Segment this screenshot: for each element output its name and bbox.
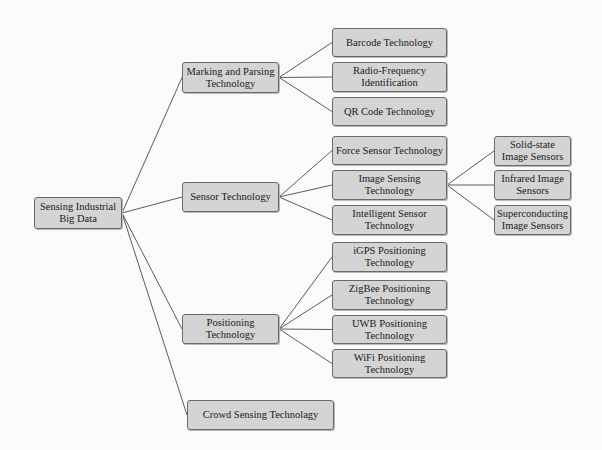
node-crowd-sensing-technology: Crowd Sensing Technolagy: [187, 400, 334, 430]
node-zigbee-positioning-technology: ZigBee Positioning Technology: [332, 280, 447, 310]
node-force-sensor-technology: Force Sensor Technology: [332, 136, 447, 165]
node-label: Sensor Technology: [190, 191, 270, 203]
node-label: Barcode Technology: [346, 37, 433, 49]
node-label: Crowd Sensing Technolagy: [203, 409, 319, 421]
node-label: Image Sensing Technology: [336, 173, 443, 197]
node-label: ZigBee Positioning Technology: [336, 283, 443, 307]
node-sensor-technology: Sensor Technology: [182, 182, 279, 212]
node-label: Radio-Frequency Identification: [336, 65, 443, 89]
node-sensing-industrial-big-data: Sensing Industrial Big Data: [34, 197, 122, 229]
node-label: QR Code Technology: [344, 106, 435, 118]
node-label: iGPS Positioning Technology: [336, 245, 443, 269]
node-label: Superconducting Image Sensors: [497, 208, 568, 232]
node-label: Positioning Technology: [186, 317, 275, 341]
node-label: Solid-state Image Sensors: [498, 139, 567, 163]
node-igps-positioning-technology: iGPS Positioning Technology: [332, 242, 447, 272]
node-marking-and-parsing-technology: Marking and Parsing Technology: [182, 62, 279, 93]
node-label: Force Sensor Technology: [336, 145, 443, 157]
node-intelligent-sensor-technology: Intelligent Sensor Technology: [332, 205, 447, 235]
node-radio-frequency-identification: Radio-Frequency Identification: [332, 62, 447, 92]
node-infrared-image-sensors: Infrared Image Sensors: [494, 170, 571, 200]
node-label: Sensing Industrial Big Data: [38, 201, 118, 225]
mind-map-diagram: Sensing Industrial Big Data Marking and …: [0, 0, 602, 450]
node-superconducting-image-sensors: Superconducting Image Sensors: [494, 205, 571, 235]
node-uwb-positioning-technology: UWB Positioning Technology: [332, 315, 447, 344]
node-label: Marking and Parsing Technology: [186, 66, 275, 90]
node-label: WiFi Positioning Technology: [336, 352, 443, 376]
node-label: Infrared Image Sensors: [498, 173, 567, 197]
node-label: UWB Positioning Technology: [336, 318, 443, 342]
node-barcode-technology: Barcode Technology: [332, 28, 447, 57]
node-positioning-technology: Positioning Technology: [182, 314, 279, 344]
node-solid-state-image-sensors: Solid-state Image Sensors: [494, 136, 571, 166]
node-label: Intelligent Sensor Technology: [336, 208, 443, 232]
node-image-sensing-technology: Image Sensing Technology: [332, 170, 447, 200]
node-wifi-positioning-technology: WiFi Positioning Technology: [332, 349, 447, 378]
node-qr-code-technology: QR Code Technology: [332, 97, 447, 126]
